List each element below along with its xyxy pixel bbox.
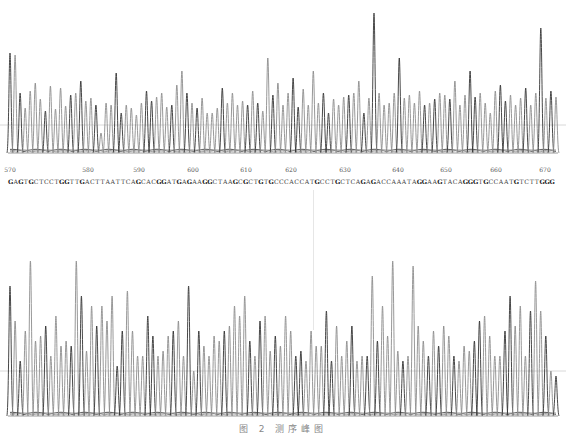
trace-bottom [0, 248, 566, 420]
trace-peak [532, 281, 538, 416]
trace-peak [280, 105, 286, 153]
position-tick-label: 660 [490, 166, 501, 173]
trace-peak [477, 93, 483, 153]
trace-peak [191, 371, 197, 416]
trace-peak [427, 103, 433, 153]
trace-peak [328, 361, 334, 416]
position-tick-label: 670 [539, 166, 550, 173]
trace-peak [497, 85, 503, 153]
trace-peak [507, 296, 513, 416]
trace-peak [272, 336, 278, 416]
trace-peak [114, 366, 120, 416]
trace-peak [282, 316, 288, 416]
trace-peak [527, 311, 533, 416]
trace-peak [38, 336, 44, 416]
trace-peak [416, 91, 422, 153]
trace-peak [194, 108, 200, 153]
trace-peak [27, 91, 33, 153]
trace-peak [128, 108, 134, 153]
trace-peak [93, 105, 99, 153]
trace-peak [538, 28, 544, 153]
trace-peak [118, 113, 124, 153]
trace-peak [390, 261, 396, 416]
trace-peak [83, 101, 89, 153]
trace-peak [354, 361, 360, 416]
trace-peak [277, 346, 283, 416]
trace-peak [379, 306, 385, 416]
trace-peak [214, 108, 220, 153]
trace-peak [37, 99, 43, 153]
position-tick-label: 640 [392, 166, 403, 173]
trace-peak [293, 356, 299, 416]
trace-peak [298, 351, 304, 416]
trace-peak [17, 361, 23, 416]
trace-peak [492, 356, 498, 416]
trace-peak [310, 71, 316, 153]
trace-peak [104, 321, 110, 416]
position-tick-label: 570 [4, 166, 15, 173]
trace-peak [209, 113, 215, 153]
trace-peak [211, 336, 217, 416]
trace-top [0, 0, 566, 160]
trace-peak [543, 336, 549, 416]
trace-peak [108, 105, 114, 153]
trace-peak [242, 296, 248, 416]
position-tick-label: 580 [82, 166, 93, 173]
trace-peak [374, 341, 380, 416]
trace-peak [318, 346, 324, 416]
trace-peak [371, 13, 377, 153]
trace-peak [406, 95, 412, 153]
trace-peak [432, 99, 438, 153]
trace-peak [32, 83, 38, 153]
chromatogram-bottom-panel [0, 248, 566, 420]
trace-peak [476, 321, 482, 416]
trace-peak [48, 356, 54, 416]
trace-peak [169, 105, 175, 153]
trace-peak [517, 306, 523, 416]
trace-peak [140, 356, 146, 416]
trace-peak [234, 105, 240, 153]
trace-peak [180, 356, 186, 416]
trace-peak [63, 106, 69, 153]
trace-peak [351, 93, 357, 153]
trace-peak [471, 341, 477, 416]
trace-peak [313, 346, 319, 416]
trace-peak [52, 109, 58, 153]
trace-peak [138, 103, 144, 153]
trace-peak [231, 306, 237, 416]
trace-peak [462, 95, 468, 153]
trace-peak [359, 356, 365, 416]
trace-peak [410, 266, 416, 416]
trace-peak [189, 103, 195, 153]
trace-peak [239, 101, 245, 153]
trace-peak [461, 346, 467, 416]
trace-peak [270, 95, 276, 153]
trace-peak [89, 306, 95, 416]
trace-peak [73, 261, 79, 416]
trace-peak [133, 115, 139, 153]
trace-peak [262, 316, 268, 416]
trace-peak [522, 356, 528, 416]
trace-peak [482, 103, 488, 153]
trace-peak [155, 356, 161, 416]
trace-peak [201, 346, 207, 416]
trace-peak [103, 103, 109, 153]
base-call: G [550, 178, 555, 185]
trace-peak [148, 101, 154, 153]
trace-peak [150, 336, 156, 416]
trace-peak [170, 331, 176, 416]
trace-peak [267, 351, 273, 416]
trace-peak [339, 356, 345, 416]
trace-peak [68, 95, 74, 153]
trace-peak [63, 341, 69, 416]
trace-peak [356, 81, 362, 153]
trace-peak [47, 86, 53, 153]
trace-peak [381, 105, 387, 153]
position-tick-label: 620 [285, 166, 296, 173]
trace-peak [395, 351, 401, 416]
trace-peak [160, 351, 166, 416]
trace-peak [58, 346, 64, 416]
trace-peak [330, 99, 336, 153]
trace-peak [315, 103, 321, 153]
trace-peak [344, 341, 350, 416]
